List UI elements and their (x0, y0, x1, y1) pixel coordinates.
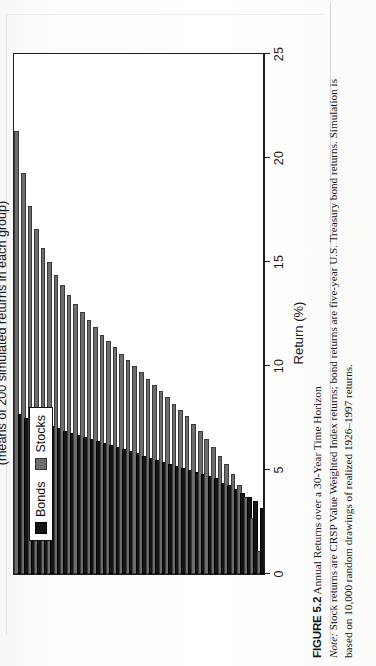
value-axis-tick-label: 10 (272, 359, 286, 373)
bar-group (243, 54, 250, 574)
caption-note-line2: based on 10,000 random drawings of reali… (341, 8, 357, 658)
legend-swatch-bonds (35, 522, 47, 534)
legend-item-bonds: Bonds (34, 482, 48, 534)
bar-chart: Lowest to Highest Returns (means of 200 … (5, 33, 305, 633)
value-axis-tick (264, 365, 270, 366)
bar-group (66, 54, 73, 574)
value-axis-tick-label: 5 (272, 466, 286, 473)
value-axis-line (264, 53, 265, 575)
figure-caption: FIGURE 5.2 Annual Returns over a 30-Year… (308, 0, 372, 666)
note-text-1: Stock returns are CRSP Value Weighted In… (327, 79, 339, 630)
figure-title: Annual Returns over a 30-Year Time Horiz… (311, 386, 323, 594)
bar-group (256, 54, 263, 574)
bar-group (152, 54, 159, 574)
figure-page: Lowest to Highest Returns (means of 200 … (0, 0, 376, 666)
value-axis-tick (264, 157, 270, 158)
chart-legend: Bonds Stocks (29, 407, 53, 541)
value-axis-tick (264, 469, 270, 470)
legend-item-stocks: Stocks (34, 415, 48, 470)
legend-label-bonds: Bonds (34, 482, 48, 517)
value-axis-tick-label: 15 (272, 255, 286, 269)
value-axis-tick-label: 25 (272, 47, 286, 61)
category-axis-title-line2: (means of 200 simulated returns in each … (0, 33, 10, 633)
bar-group (132, 54, 139, 574)
figure-number: FIGURE 5.2 (310, 597, 323, 658)
value-axis-tick (264, 53, 270, 54)
legend-swatch-stocks (35, 458, 47, 470)
bar-group (191, 54, 198, 574)
bar-group (171, 54, 178, 574)
value-axis-tick (264, 261, 270, 262)
value-axis-tick (264, 573, 270, 574)
caption-title-line: FIGURE 5.2 Annual Returns over a 30-Year… (309, 8, 326, 658)
caption-inner: FIGURE 5.2 Annual Returns over a 30-Year… (309, 8, 371, 658)
legend-label-stocks: Stocks (34, 415, 48, 453)
bar-group (80, 54, 87, 574)
bar-group (119, 54, 126, 574)
bar-group (224, 54, 231, 574)
bar-group (99, 54, 106, 574)
note-label: Note: (327, 633, 339, 658)
value-axis-label: Return (%) (291, 33, 306, 633)
caption-note-line1: Note: Stock returns are CRSP Value Weigh… (326, 8, 342, 658)
value-axis-tick-label: 0 (272, 570, 286, 577)
bar-group (204, 54, 211, 574)
value-axis-tick-label: 20 (272, 151, 286, 165)
